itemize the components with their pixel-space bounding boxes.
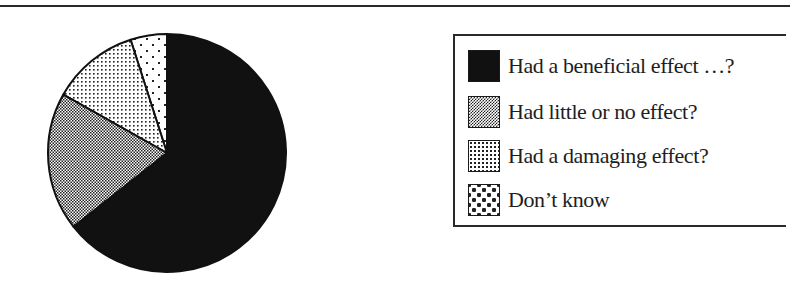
legend-label: Had a beneficial effect …? <box>508 53 734 79</box>
legend-label: Had a damaging effect? <box>508 143 708 169</box>
legend-item-dont-know: Don’t know <box>468 183 609 217</box>
legend-item-damaging: Had a damaging effect? <box>468 139 708 173</box>
legend-swatch-dense-dots <box>468 140 500 172</box>
legend-swatch-sparse-dots <box>468 184 500 216</box>
pie-chart <box>0 0 340 282</box>
legend-label: Don’t know <box>508 187 609 213</box>
legend-item-little-effect: Had little or no effect? <box>468 95 697 129</box>
chart-legend: Had a beneficial effect …? Had little or… <box>453 34 786 227</box>
legend-item-beneficial: Had a beneficial effect …? <box>468 49 734 83</box>
pie-svg <box>0 0 340 282</box>
legend-label: Had little or no effect? <box>508 99 697 125</box>
legend-swatch-checker <box>468 96 500 128</box>
legend-swatch-solid <box>468 50 500 82</box>
